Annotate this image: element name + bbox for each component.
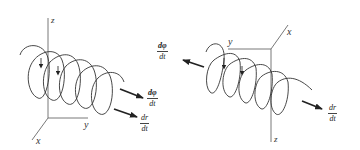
right-dr-denominator: dt — [329, 114, 335, 123]
right-x-axis — [271, 25, 288, 49]
left-dphi-dt-label: dφ dt — [147, 89, 158, 109]
right-dphi-denominator: dt — [159, 52, 165, 61]
right-helix — [206, 44, 312, 115]
left-dr-denominator: dt — [141, 124, 147, 133]
left-x-label: x — [36, 136, 40, 146]
left-dr-dt-label: dr dt — [140, 114, 149, 134]
right-dr-dt-label: dr dt — [328, 104, 337, 124]
left-z-label: z — [51, 16, 55, 25]
left-dphi-arrow — [120, 89, 143, 98]
right-dr-numerator: dr — [328, 104, 337, 114]
left-dphi-denominator: dt — [149, 99, 155, 108]
left-dphi-numerator: dφ — [147, 89, 158, 99]
left-helix — [20, 46, 124, 115]
left-dr-numerator: dr — [140, 114, 149, 124]
left-y-label: y — [84, 120, 88, 130]
right-dphi-arrow — [183, 60, 204, 67]
right-y-label: y — [228, 37, 232, 47]
left-figure — [20, 18, 143, 140]
right-dr-arrow — [302, 101, 322, 109]
right-figure — [183, 25, 322, 142]
right-dphi-dt-label: dφ dt — [157, 42, 168, 62]
right-dphi-numerator: dφ — [157, 42, 168, 52]
right-x-label: x — [287, 27, 291, 37]
left-dr-arrow — [114, 109, 137, 117]
right-z-label: z — [274, 135, 278, 144]
